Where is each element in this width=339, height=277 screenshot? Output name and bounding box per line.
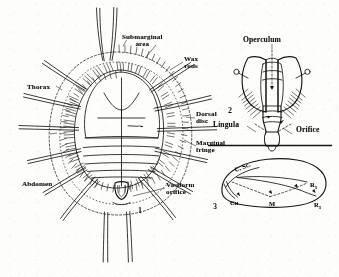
figure-2-vasiform-orifice — [234, 44, 310, 151]
cubitus-vein — [224, 184, 235, 199]
figure-1-number: 1 — [138, 206, 142, 215]
figure-1-pupal-case — [19, 8, 217, 263]
label-lingula: Lingula — [213, 121, 239, 129]
radius-five-vein — [237, 177, 307, 182]
caudal-setae — [103, 212, 132, 263]
label-wax-rods: Wax rods — [184, 56, 198, 70]
label-abdomen: Abdomen — [22, 181, 52, 188]
label-media: M — [269, 201, 275, 208]
radius-five-subscript: 5 — [315, 185, 318, 190]
label-radius-five: R5 — [310, 175, 317, 190]
plate-drawing: .ln{fill:none;stroke:#1a1713;stroke-widt… — [0, 0, 339, 277]
label-vasiform-orifice: Vasiform orifice — [166, 182, 195, 196]
label-radius-one: R1 — [314, 195, 321, 210]
figure-3-number: 3 — [213, 202, 217, 211]
label-marginal-fringe: Marginal fringe — [196, 140, 225, 154]
label-thorax: Thorax — [27, 84, 50, 91]
illustration-plate: .ln{fill:none;stroke:#1a1713;stroke-widt… — [0, 0, 339, 277]
label-submarginal-area: Submarginal area — [122, 34, 163, 48]
label-operculum: Operculum — [243, 36, 281, 44]
figure-2-number: 2 — [228, 106, 232, 115]
radius-one-subscript: 1 — [319, 205, 322, 210]
label-cubitus: Cu — [230, 200, 239, 207]
label-orifice: Orifice — [296, 126, 319, 134]
